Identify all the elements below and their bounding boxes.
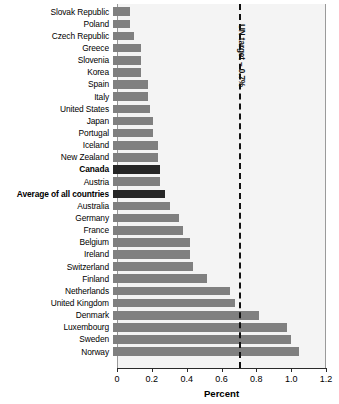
x-tick-label: 0.6 [215,374,228,384]
x-tick [152,368,153,372]
bar [113,68,141,77]
bar-row-label: Slovenia [0,56,113,65]
bar-row-label: Italy [0,93,113,102]
bar-row: Ireland [0,249,339,261]
bar-row: Slovenia [0,55,339,67]
bar-row: Norway [0,346,339,358]
bar [113,92,148,101]
bar [113,347,299,356]
bar [113,20,130,29]
bar [113,323,287,332]
bar-row: Iceland [0,140,339,152]
bar-track [113,115,322,127]
bar-row: United States [0,103,339,115]
x-tick-label: 1.2 [320,374,333,384]
bar-chart: Slovak RepublicPolandCzech RepublicGreec… [0,0,339,404]
x-tick [256,368,257,372]
bar-row-label: Iceland [0,141,113,150]
bar-row-label: Ireland [0,250,113,259]
bar-track [113,42,322,54]
bar-row-label: Korea [0,68,113,77]
bar [113,274,207,283]
bar-row-label: Canada [0,165,113,174]
bar-row-label: Portugal [0,129,113,138]
bar-row: Canada [0,164,339,176]
x-tick-label: 0.4 [180,374,193,384]
bar [113,262,193,271]
bar-track [113,18,322,30]
bar-track [113,79,322,91]
bar-row-label: Luxembourg [0,323,113,332]
bar-row: Denmark [0,310,339,322]
bar-row: Austria [0,176,339,188]
bar-row: Switzerland [0,261,339,273]
x-tick [187,368,188,372]
bar [113,44,141,53]
bar [113,287,230,296]
bar-row: Portugal [0,127,339,139]
bar-row: Belgium [0,237,339,249]
bar [113,226,183,235]
bar-row-label: Czech Republic [0,32,113,41]
bar [113,56,141,65]
bar [113,7,130,16]
bar [113,311,259,320]
bar-track [113,140,322,152]
bar-row-label: United Kingdom [0,299,113,308]
bar-row: Germany [0,212,339,224]
bar-track [113,334,322,346]
bar-track [113,103,322,115]
bar-track [113,152,322,164]
bar-track [113,273,322,285]
bar-track [113,55,322,67]
bar-rows: Slovak RepublicPolandCzech RepublicGreec… [0,6,339,358]
bar-track [113,164,322,176]
bar-track [113,67,322,79]
bar-row: Slovak Republic [0,6,339,18]
bar [113,190,165,199]
bar-track [113,91,322,103]
bar-row: Australia [0,200,339,212]
bar-row: Luxembourg [0,322,339,334]
x-tick-label: 0.8 [250,374,263,384]
bar-row-label: United States [0,105,113,114]
bar-row-label: France [0,226,113,235]
bar-track [113,322,322,334]
bar-track [113,176,322,188]
bar-row: France [0,225,339,237]
bar-row-label: Sweden [0,335,113,344]
x-tick-label: 0 [114,374,119,384]
bar [113,165,160,174]
bar-row-label: Slovak Republic [0,8,113,17]
bar [113,129,153,138]
bar-track [113,225,322,237]
bar-track [113,261,322,273]
bar-track [113,188,322,200]
bar-row: New Zealand [0,152,339,164]
x-tick [291,368,292,372]
bar-row: Poland [0,18,339,30]
bar [113,299,235,308]
bar-row: Average of all countries [0,188,339,200]
bar-row-label: Austria [0,178,113,187]
x-tick [222,368,223,372]
bar [113,238,190,247]
un-target-line-label: UN target – 0.7% [237,24,246,87]
bar-row: United Kingdom [0,297,339,309]
bar-row: Netherlands [0,285,339,297]
bar-row-label: Greece [0,44,113,53]
bar-row-label: Belgium [0,238,113,247]
bar-track [113,346,322,358]
x-tick-label: 1.0 [285,374,298,384]
bar-track [113,200,322,212]
bar [113,250,190,259]
bar-track [113,237,322,249]
bar-row-label: Norway [0,348,113,357]
x-tick [117,368,118,372]
bar-track [113,212,322,224]
bar [113,335,291,344]
bar-row-label: Switzerland [0,263,113,272]
bar-track [113,310,322,322]
bar [113,214,179,223]
bar-row: Greece [0,42,339,54]
